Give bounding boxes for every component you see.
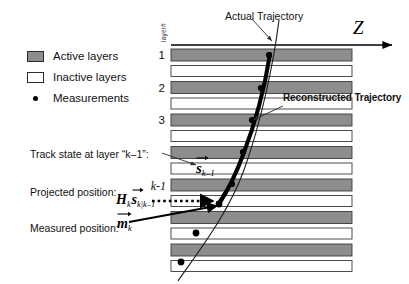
measurement-dot (258, 85, 264, 91)
legend-label-inactive-layers: Inactive layers (53, 71, 127, 83)
measurement-dot (193, 230, 200, 237)
measurement-dot (229, 181, 235, 187)
vector-s-accent: s (196, 160, 202, 177)
legend-label-measurements: Measurements (53, 92, 129, 104)
active-layer (171, 212, 352, 224)
measured-position-symbol-subscript: k (128, 224, 132, 233)
measurement-dot (178, 259, 185, 266)
measured-position-label: Measured position: (30, 222, 119, 234)
projection-matrix-subscript: k (127, 200, 131, 209)
active-layer (171, 49, 352, 61)
layer-number-1: 1 (143, 49, 165, 61)
measurement-dot (240, 149, 246, 155)
inactive-layer (171, 131, 352, 142)
active-layer-swatch (27, 51, 44, 62)
track-state-symbol-subscript: k–1 (202, 168, 215, 178)
measured-position-symbol: mk (117, 216, 132, 232)
kalman-track-diagram: Active layers Inactive layers Measuremen… (0, 0, 409, 284)
measurement-dot-swatch (27, 93, 44, 104)
actual-trajectory-label: Actual Trajectory (225, 10, 303, 22)
active-layer (171, 147, 352, 159)
layer-axis-caption: layer# (160, 23, 167, 42)
diagram-canvas (0, 0, 409, 284)
track-state-symbol: sk–1 (196, 160, 215, 177)
actual-trajectory-leader (252, 19, 272, 41)
measured-position-symbol-base: m (117, 216, 128, 231)
layer-number-2: 2 (143, 82, 165, 94)
measurement-dot (216, 201, 223, 208)
reconstructed-trajectory-label: Reconstructed Trajectory (283, 92, 401, 103)
track-state-symbol-base: s (196, 160, 202, 176)
legend-item-active-layers: Active layers (27, 50, 118, 62)
z-axis-label: Z (353, 17, 364, 39)
track-state-label: Track state at layer “k–1”: (30, 148, 149, 160)
layer-number-3: 3 (143, 114, 165, 126)
projection-matrix-symbol: H (116, 192, 127, 207)
inactive-layer (171, 66, 352, 77)
active-layer (171, 179, 352, 191)
projected-state-symbol-subscript: k|k–1 (137, 200, 155, 209)
active-layer (171, 244, 352, 256)
projected-position-label: Projected position: (30, 186, 116, 198)
projected-position-symbol: Hk sk|k–1 (116, 192, 155, 208)
inactive-layer-swatch (27, 72, 44, 83)
measurement-dot (249, 117, 255, 123)
legend-label-active-layers: Active layers (53, 50, 118, 62)
legend-item-measurements: Measurements (27, 92, 129, 104)
vector-m-accent: m (117, 216, 128, 232)
inactive-layer (171, 261, 352, 272)
measurement-dot (266, 52, 272, 58)
legend-item-inactive-layers: Inactive layers (27, 71, 127, 83)
